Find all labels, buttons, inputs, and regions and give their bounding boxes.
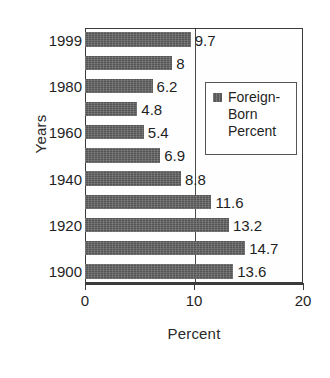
bar-value-label: 11.6: [211, 193, 243, 210]
bar-row: 14.7: [85, 241, 303, 255]
bar: [85, 56, 172, 70]
bar-value-label: 5.4: [144, 124, 169, 141]
y-tick-labels: 199919801960194019201900: [32, 28, 82, 283]
bar: [85, 125, 144, 139]
bar-value-label: 9.7: [191, 31, 216, 48]
bar-value-label: 4.8: [137, 101, 162, 118]
y-tick-label: 1900: [36, 263, 82, 280]
x-tick-mark: [194, 283, 195, 290]
bar-value-label: 13.6: [233, 263, 266, 280]
y-tick-label: 1960: [36, 124, 82, 141]
bar-value-label: 14.7: [245, 240, 278, 257]
bar: [85, 32, 191, 46]
bar-row: 9.7: [85, 32, 303, 46]
bar: [85, 195, 211, 209]
bars-layer: 9.786.24.85.46.98.811.613.214.713.6: [85, 28, 303, 283]
bar-value-label: 13.2: [229, 217, 262, 234]
bar: [85, 102, 137, 116]
bar-value-label: 6.9: [160, 147, 185, 164]
y-tick-label: 1999: [36, 31, 82, 48]
y-tick-label: 1920: [36, 217, 82, 234]
bar: [85, 241, 245, 255]
x-tick-label: 20: [295, 292, 312, 309]
bar-chart: Years 9.786.24.85.46.98.811.613.214.713.…: [0, 0, 330, 378]
bar: [85, 79, 153, 93]
y-tick-label: 1940: [36, 170, 82, 187]
bar-row: 11.6: [85, 195, 303, 209]
x-tick-mark: [85, 283, 86, 290]
x-tick-label: 0: [81, 292, 89, 309]
bar-value-label: 8: [172, 54, 184, 71]
bar: [85, 171, 181, 185]
bar-value-label: 8.8: [181, 170, 206, 187]
y-tick-label: 1980: [36, 77, 82, 94]
x-tick-label: 10: [186, 292, 203, 309]
bar-row: 8.8: [85, 171, 303, 185]
bar-row: 8: [85, 56, 303, 70]
chart-legend: Foreign- Born Percent: [205, 82, 297, 155]
x-tick-mark: [303, 283, 304, 290]
bar: [85, 218, 229, 232]
bar-value-label: 6.2: [153, 77, 178, 94]
legend-label: Foreign- Born Percent: [228, 89, 280, 140]
bar: [85, 264, 233, 278]
bar: [85, 148, 160, 162]
x-axis-title: Percent: [85, 325, 303, 342]
bar-row: 13.2: [85, 218, 303, 232]
legend-swatch-icon: [213, 93, 222, 102]
bar-row: 13.6: [85, 264, 303, 278]
